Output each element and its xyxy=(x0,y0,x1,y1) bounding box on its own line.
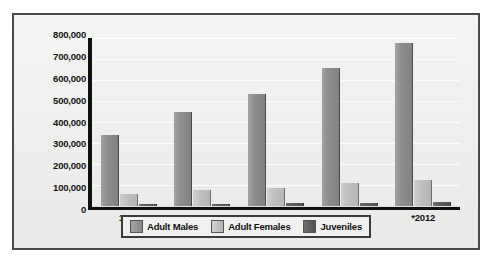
bar-juveniles xyxy=(139,204,157,206)
bar-females xyxy=(267,188,285,206)
legend-label: Adult Males xyxy=(147,221,198,232)
y-tick-label: 600,000 xyxy=(24,72,86,83)
bar-group xyxy=(317,38,383,206)
bar-males xyxy=(322,68,340,206)
legend-entry: Adult Males xyxy=(130,220,198,233)
legend-label: Juveniles xyxy=(320,221,362,232)
y-tick-label: 800,000 xyxy=(24,29,86,40)
chart-figure: 800,000700,000600,000500,000400,000300,0… xyxy=(12,13,480,250)
y-tick-label: 200,000 xyxy=(24,160,86,171)
bar-females xyxy=(120,194,138,206)
gridline xyxy=(92,206,460,207)
y-tick-label: 500,000 xyxy=(24,94,86,105)
bar-juveniles xyxy=(212,204,230,206)
bar-group xyxy=(243,38,309,206)
x-tick-label: *2012 xyxy=(390,212,456,228)
bar-juveniles xyxy=(360,203,378,206)
bar-juveniles xyxy=(286,203,304,206)
plot-area xyxy=(92,38,460,206)
bar-group xyxy=(96,38,162,206)
y-axis: 800,000700,000600,000500,000400,000300,0… xyxy=(24,34,86,209)
y-tick-label: 700,000 xyxy=(24,50,86,61)
bar-group xyxy=(390,38,456,206)
y-tick-label: 300,000 xyxy=(24,138,86,149)
bar-females xyxy=(341,183,359,206)
bar-juveniles xyxy=(433,202,451,206)
legend-label: Adult Females xyxy=(228,221,290,232)
bar-group xyxy=(169,38,235,206)
bar-males xyxy=(101,135,119,206)
bar-males xyxy=(174,112,192,207)
bar-groups xyxy=(92,38,460,206)
bar-males xyxy=(395,43,413,206)
y-tick-label: 400,000 xyxy=(24,116,86,127)
legend-entry: Adult Females xyxy=(211,220,290,233)
y-tick-label: 100,000 xyxy=(24,182,86,193)
legend-swatch-females xyxy=(211,220,224,233)
chart-legend: Adult MalesAdult FemalesJuveniles xyxy=(121,215,371,238)
bar-males xyxy=(248,94,266,206)
legend-entry: Juveniles xyxy=(303,220,362,233)
bar-females xyxy=(414,180,432,206)
legend-swatch-males xyxy=(130,220,143,233)
legend-swatch-juveniles xyxy=(303,220,316,233)
y-tick-label: 0 xyxy=(24,204,86,215)
bar-females xyxy=(193,190,211,206)
